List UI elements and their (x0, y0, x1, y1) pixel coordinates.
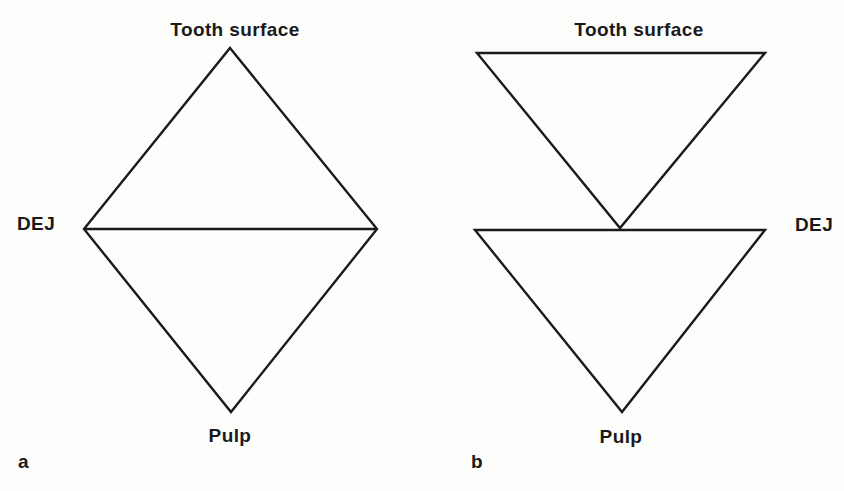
caries-spread-diagram: Tooth surface DEJ Pulp a Tooth surface D… (0, 0, 844, 491)
line-art-canvas (0, 0, 844, 491)
dej-label-b: DEJ (795, 215, 833, 236)
tooth-surface-label-a: Tooth surface (170, 20, 299, 41)
pulp-label-b: Pulp (600, 427, 643, 448)
panel-letter-a: a (18, 452, 29, 473)
upper-triangle-b (477, 53, 765, 228)
lower-triangle-b (475, 230, 765, 412)
dej-label-a: DEJ (17, 214, 55, 235)
panel-letter-b: b (471, 452, 483, 473)
tooth-surface-label-b: Tooth surface (574, 20, 703, 41)
pulp-label-a: Pulp (209, 426, 252, 447)
